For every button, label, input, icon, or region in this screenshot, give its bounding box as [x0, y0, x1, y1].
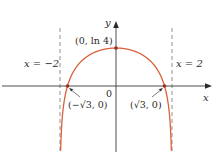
x-axis-label: x [203, 92, 209, 103]
left-asymptote-label: x = −2 [24, 58, 59, 69]
right-intercept-label: (√3, 0) [130, 99, 162, 110]
y-axis-label: y [104, 17, 111, 28]
function-graph: y x 0 (0, ln 4) x = −2 x = 2 (−√3, 0) (√… [0, 0, 214, 166]
y-axis-arrow-icon [113, 21, 119, 28]
left-intercept-label: (−√3, 0) [68, 99, 108, 110]
peak-label: (0, ln 4) [75, 35, 113, 46]
origin-label: 0 [106, 88, 112, 99]
x-axis-arrow-icon [205, 83, 212, 89]
right-intercept-point [163, 84, 167, 88]
peak-point [114, 46, 118, 50]
right-asymptote-label: x = 2 [176, 58, 203, 69]
left-intercept-point [66, 84, 70, 88]
